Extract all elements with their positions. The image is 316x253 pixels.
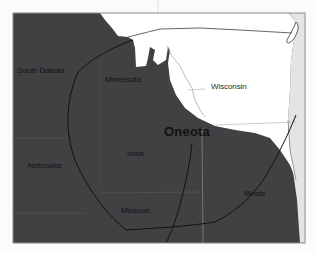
label-missouri: Missouri [121, 207, 150, 215]
oneota-map: South Dakota Minnesota Wisconsin Oneota … [0, 0, 316, 253]
map-graphic [0, 0, 316, 253]
label-oneota: Oneota [164, 125, 210, 138]
label-south-dakota: South Dakota [17, 67, 64, 75]
label-minnesota: Minnesota [105, 76, 141, 84]
label-wisconsin: Wisconsin [211, 83, 247, 91]
label-illinois: Illinois [244, 190, 265, 198]
label-nebraska: Nebraska [28, 162, 61, 170]
label-iowa: Iowa [127, 150, 144, 158]
